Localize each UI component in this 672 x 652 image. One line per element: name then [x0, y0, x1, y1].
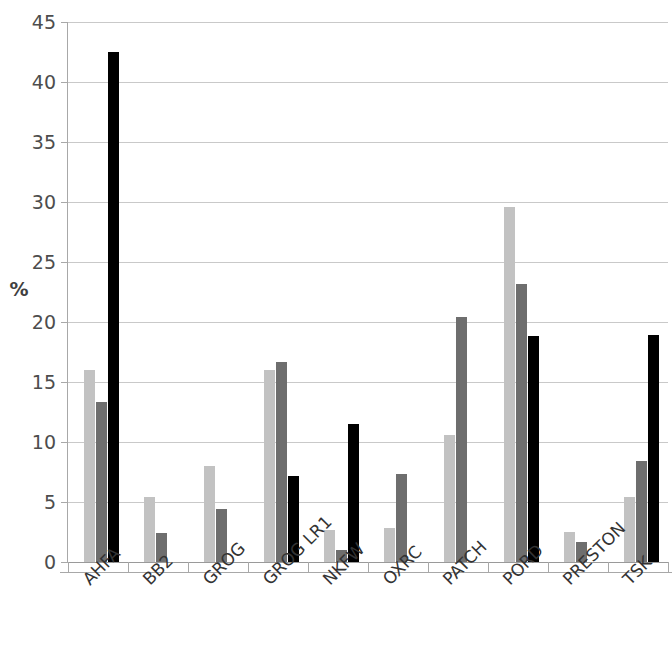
y-axis-tick — [61, 202, 68, 203]
x-axis-tick — [488, 562, 489, 573]
bar — [444, 435, 455, 562]
plot-area — [68, 22, 668, 562]
bar — [504, 207, 515, 562]
y-axis-tick-label: 30 — [10, 193, 56, 212]
y-axis-tick — [61, 562, 68, 563]
y-axis-tick — [61, 22, 68, 23]
bar-group — [68, 22, 128, 562]
bar — [84, 370, 95, 562]
bar — [528, 336, 539, 562]
bar-group — [608, 22, 668, 562]
bar-chart: % 051015202530354045AHFABB2GROGGROG LR1N… — [0, 0, 672, 652]
bar — [636, 461, 647, 562]
y-axis-tick — [61, 82, 68, 83]
x-axis-tick — [548, 562, 549, 573]
x-axis-tick — [68, 562, 69, 573]
x-axis-tick — [128, 562, 129, 573]
y-axis-tick — [61, 322, 68, 323]
y-axis-tick-label: 15 — [10, 373, 56, 392]
y-axis-tick-label: 10 — [10, 433, 56, 452]
bar-group — [428, 22, 488, 562]
bar-group — [548, 22, 608, 562]
x-axis-tick — [308, 562, 309, 573]
bar — [516, 284, 527, 562]
x-axis-tick — [608, 562, 609, 573]
y-axis-tick — [61, 382, 68, 383]
bar — [108, 52, 119, 562]
y-axis-tick-label: 0 — [10, 553, 56, 572]
y-axis-tick-label: 40 — [10, 73, 56, 92]
x-axis-tick — [188, 562, 189, 573]
bar — [96, 402, 107, 562]
y-axis-tick-label: 35 — [10, 133, 56, 152]
bar-group — [368, 22, 428, 562]
bar — [456, 317, 467, 562]
bar — [144, 497, 155, 562]
y-axis-tick — [61, 502, 68, 503]
x-axis-tick — [428, 562, 429, 573]
y-axis-tick-label: 25 — [10, 253, 56, 272]
bar-group — [128, 22, 188, 562]
bar — [276, 362, 287, 562]
bar — [648, 335, 659, 562]
y-axis-tick-label: 5 — [10, 493, 56, 512]
bar-group — [188, 22, 248, 562]
bar — [264, 370, 275, 562]
bar — [204, 466, 215, 562]
bar — [564, 532, 575, 562]
x-axis-tick — [668, 562, 669, 573]
y-axis-tick — [61, 442, 68, 443]
y-axis-title: % — [4, 278, 34, 300]
bar-group — [248, 22, 308, 562]
bar-group — [488, 22, 548, 562]
bar — [384, 528, 395, 562]
y-axis-tick — [61, 142, 68, 143]
x-axis-tick — [368, 562, 369, 573]
bar-group — [308, 22, 368, 562]
x-axis-tick — [248, 562, 249, 573]
y-axis-tick-label: 20 — [10, 313, 56, 332]
y-axis-tick — [61, 262, 68, 263]
y-axis-tick-label: 45 — [10, 13, 56, 32]
